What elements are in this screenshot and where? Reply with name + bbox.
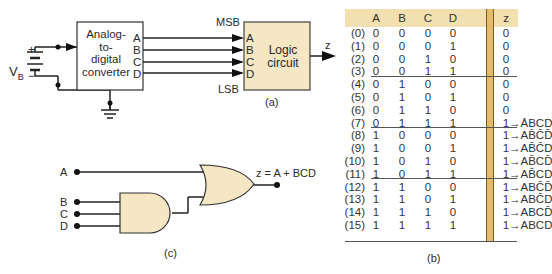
- logic-label: Logic circuit: [260, 44, 306, 70]
- cell-d: 0: [447, 129, 459, 141]
- minterm-expr: AB̄C̄D: [521, 142, 552, 154]
- cell-d: 0: [447, 78, 459, 90]
- cell-c: 1: [422, 104, 434, 116]
- minterm: →ABCD̄: [509, 206, 552, 218]
- row-index: (15): [339, 219, 365, 231]
- row-index: (11): [339, 168, 365, 180]
- caption-a: (a): [265, 97, 278, 108]
- msb-label: MSB: [216, 17, 240, 28]
- row-index: (5): [339, 91, 365, 103]
- cell-b: 1: [396, 104, 408, 116]
- cell-c: 1: [422, 219, 434, 231]
- arrow-icon: →: [509, 129, 521, 141]
- cell-b: 0: [396, 142, 408, 154]
- group-divider: [371, 178, 517, 179]
- arrow-icon: →: [509, 142, 521, 154]
- row-index: (7): [339, 117, 365, 129]
- cell-z: 0: [500, 78, 512, 90]
- minterm-expr: AB̄CD: [521, 168, 552, 180]
- cell-c: 0: [422, 142, 434, 154]
- cell-d: 1: [447, 142, 459, 154]
- cell-d: 0: [447, 181, 459, 193]
- cell-b: 0: [396, 129, 408, 141]
- row-index: (9): [339, 142, 365, 154]
- row-index: (1): [339, 40, 365, 52]
- minterm-expr: ABCD̄: [521, 206, 552, 218]
- battery-minus: −: [28, 70, 35, 82]
- minterm-expr: ABCD: [521, 219, 552, 231]
- minterm-expr: ĀBCD: [521, 117, 552, 129]
- cell-d: 0: [447, 206, 459, 218]
- row-index: (3): [339, 65, 365, 77]
- minterm: →ABC̄D̄: [509, 181, 552, 193]
- header-a: A: [370, 12, 382, 24]
- cell-z: 0: [500, 91, 512, 103]
- cell-d: 1: [447, 193, 459, 205]
- cell-d: 0: [447, 27, 459, 39]
- minterm: →ABC̄D: [509, 193, 552, 205]
- caption-c: (c): [164, 248, 177, 259]
- group-divider: [371, 76, 517, 77]
- table-header: [345, 9, 487, 27]
- cell-c: 1: [422, 53, 434, 65]
- row-index: (10): [339, 155, 365, 167]
- arrow-icon: →: [509, 181, 521, 193]
- minterm-expr: ABC̄D̄: [521, 181, 552, 193]
- row-index: (8): [339, 129, 365, 141]
- cell-b: 1: [396, 206, 408, 218]
- table-bottom-rule: [345, 241, 517, 242]
- cell-b: 1: [396, 181, 408, 193]
- minterm-expr: AB̄C̄D̄: [521, 129, 552, 141]
- arrow-icon: →: [509, 219, 521, 231]
- cell-a: 1: [370, 219, 382, 231]
- cell-a: 1: [370, 155, 382, 167]
- cell-c: 0: [422, 129, 434, 141]
- header-c: C: [422, 12, 434, 24]
- battery-label: VB: [9, 64, 24, 82]
- cell-c: 1: [422, 155, 434, 167]
- row-index: (14): [339, 206, 365, 218]
- or-gate: [200, 165, 254, 205]
- lsb-label: LSB: [218, 84, 239, 95]
- cell-c: 0: [422, 91, 434, 103]
- arrow-icon: →: [509, 193, 521, 205]
- adc-outputs: A B C D: [133, 32, 141, 80]
- cell-d: 0: [447, 155, 459, 167]
- cell-c: 0: [422, 193, 434, 205]
- header-z: z: [500, 12, 512, 24]
- cell-a: 0: [370, 53, 382, 65]
- cell-a: 0: [370, 27, 382, 39]
- cell-z: 0: [500, 40, 512, 52]
- arrow-icon: →: [509, 206, 521, 218]
- group-divider: [371, 127, 517, 128]
- header-d: D: [447, 12, 459, 24]
- cell-d: 0: [447, 53, 459, 65]
- minterm: →AB̄C̄D̄: [509, 129, 552, 141]
- cell-a: 1: [370, 181, 382, 193]
- cell-b: 1: [396, 91, 408, 103]
- cell-d: 0: [447, 104, 459, 116]
- row-index: (0): [339, 27, 365, 39]
- battery-plus: +: [28, 44, 35, 56]
- minterm: →AB̄C̄D: [509, 142, 552, 154]
- row-index: (13): [339, 193, 365, 205]
- caption-b: (b): [427, 253, 440, 264]
- cell-d: 1: [447, 91, 459, 103]
- row-index: (2): [339, 53, 365, 65]
- input-c-label: C: [60, 209, 68, 220]
- cell-a: 0: [370, 91, 382, 103]
- cell-c: 0: [422, 181, 434, 193]
- cell-d: 1: [447, 219, 459, 231]
- output-z-label: z: [325, 40, 331, 51]
- cell-c: 1: [422, 206, 434, 218]
- input-a-label: A: [60, 167, 67, 178]
- z-column-divider: [486, 9, 494, 242]
- logic-inputs: A B C D: [246, 32, 254, 80]
- cell-c: 0: [422, 40, 434, 52]
- header-b: B: [396, 12, 408, 24]
- row-index: (6): [339, 104, 365, 116]
- cell-d: 1: [447, 40, 459, 52]
- and-gate: [120, 193, 170, 233]
- cell-b: 1: [396, 219, 408, 231]
- cell-b: 1: [396, 78, 408, 90]
